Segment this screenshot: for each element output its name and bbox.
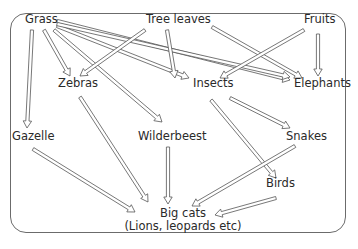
node-snakes: Snakes [286,130,327,143]
node-fruits: Fruits [304,13,336,26]
arrow-1 [43,29,71,76]
node-gazelle: Gazelle [12,130,55,143]
arrow-13 [164,147,172,204]
arrow-14 [229,97,290,129]
node-big-cats: Big cats (Lions, leopards etc) [118,207,248,233]
node-grass: Grass [25,13,58,26]
arrow-11 [79,96,148,202]
node-zebras: Zebras [58,77,98,90]
node-wilderbeest: Wilderbeest [138,130,207,143]
arrow-0 [23,30,33,128]
big-cats-sublabel: (Lions, leopards etc) [118,220,248,233]
node-birds: Birds [266,177,295,190]
node-tree-leaves: Tree leaves [146,13,211,26]
arrow-10 [314,34,322,76]
node-insects: Insects [193,77,234,90]
node-elephants: Elephants [294,77,351,90]
arrow-15 [210,99,276,178]
